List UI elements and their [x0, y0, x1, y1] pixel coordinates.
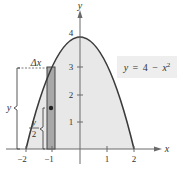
y-tick-2: 2	[69, 90, 74, 100]
x-tick-neg1: −1	[44, 154, 54, 164]
equation-label: y = 4 − x2	[123, 61, 171, 73]
half-height-numerator: y	[31, 117, 36, 127]
height-label: y	[6, 102, 12, 113]
y-axis-arrow-icon	[78, 10, 83, 18]
x-tick-neg2: −2	[17, 154, 27, 164]
y-tick-4: 4	[69, 28, 74, 38]
half-height-denominator: 2	[32, 129, 37, 139]
centroid-dot	[49, 106, 53, 110]
y-axis-label: y	[77, 0, 83, 11]
y-tick-3: 3	[69, 62, 74, 72]
x-tick-1: 1	[105, 154, 110, 164]
x-tick-2: 2	[132, 154, 137, 164]
delta-x-label: Δx	[30, 57, 42, 68]
y-tick-1: 1	[69, 117, 74, 127]
x-axis-label: x	[164, 143, 170, 154]
x-axis-arrow-icon	[154, 147, 162, 152]
parabola-diagram: −2 −1 1 2 1 2 3 4 x y Δx y y 2 y = 4 − x…	[0, 0, 180, 173]
height-bracket	[14, 68, 20, 149]
